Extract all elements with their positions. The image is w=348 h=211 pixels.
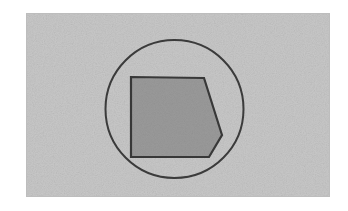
geometric-figure	[0, 0, 348, 211]
figure-container: Pentagon inscribed in circle on gray pan…	[0, 0, 348, 211]
